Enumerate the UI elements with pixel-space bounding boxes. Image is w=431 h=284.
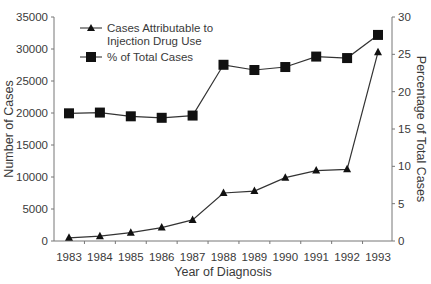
x-tick-label: 1991: [303, 251, 329, 263]
series-line: [69, 35, 378, 118]
x-tick-label: 1988: [211, 251, 237, 263]
x-tick-label: 1992: [334, 251, 360, 263]
y2-tick-label: 0: [398, 235, 404, 247]
y2-tick-label: 5: [398, 198, 404, 210]
square-marker-icon: [157, 113, 167, 123]
x-tick-label: 1987: [180, 251, 206, 263]
square-marker-icon: [64, 108, 74, 118]
y-axis-label: Number of Cases: [2, 80, 16, 177]
x-tick-label: 1984: [87, 251, 113, 263]
y-tick-label: 15000: [16, 139, 48, 151]
y2-tick-label: 30: [398, 11, 411, 23]
square-marker-icon: [342, 53, 352, 63]
chart: 0500010000150002000025000300003500005101…: [0, 0, 431, 284]
x-tick-label: 1989: [242, 251, 268, 263]
legend-series2: % of Total Cases: [107, 51, 193, 63]
square-marker-icon: [126, 111, 136, 121]
y-tick-label: 5000: [22, 203, 48, 215]
square-marker-icon: [188, 111, 198, 121]
axes: 0500010000150002000025000300003500005101…: [16, 11, 411, 263]
y2-tick-label: 20: [398, 86, 411, 98]
y2-tick-label: 15: [398, 123, 411, 135]
square-marker-icon: [86, 52, 96, 62]
square-marker-icon: [311, 52, 321, 62]
y2-axis-label: Percentage of Total Cases: [414, 56, 428, 202]
y-tick-label: 30000: [16, 43, 48, 55]
square-marker-icon: [373, 30, 383, 40]
series-line: [69, 52, 378, 238]
x-tick-label: 1990: [273, 251, 299, 263]
legend-series1-line2: Injection Drug Use: [107, 35, 202, 47]
y-tick-label: 0: [42, 235, 48, 247]
y-tick-label: 25000: [16, 75, 48, 87]
y2-tick-label: 25: [398, 48, 411, 60]
triangle-marker-icon: [374, 48, 382, 56]
x-axis-label: Year of Diagnosis: [174, 265, 272, 279]
y-tick-label: 35000: [16, 11, 48, 23]
square-marker-icon: [95, 108, 105, 118]
y-tick-label: 20000: [16, 107, 48, 119]
x-tick-label: 1985: [118, 251, 144, 263]
triangle-marker-icon: [65, 233, 73, 241]
square-marker-icon: [280, 62, 290, 72]
triangle-marker-icon: [189, 215, 197, 223]
x-tick-label: 1983: [56, 251, 82, 263]
legend: Cases Attributable to Injection Drug Use…: [80, 22, 213, 63]
triangle-marker-icon: [312, 166, 320, 174]
y-tick-label: 10000: [16, 171, 48, 183]
triangle-marker-icon: [343, 165, 351, 173]
y2-tick-label: 10: [398, 160, 411, 172]
square-marker-icon: [219, 60, 229, 70]
x-tick-label: 1993: [365, 251, 391, 263]
legend-series1-line1: Cases Attributable to: [107, 22, 213, 34]
x-tick-label: 1986: [149, 251, 175, 263]
square-marker-icon: [249, 65, 259, 75]
